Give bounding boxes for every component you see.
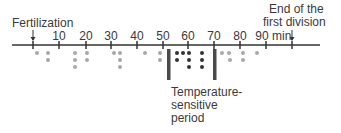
end-division-label-line2: first division bbox=[263, 16, 326, 29]
unit-label: min bbox=[272, 30, 291, 43]
tick-label-20: 20 bbox=[79, 30, 92, 43]
light-dots bbox=[35, 51, 259, 69]
tick-label-70: 70 bbox=[207, 30, 220, 43]
fertilization-arrow-icon bbox=[31, 30, 36, 41]
tick-label-80: 80 bbox=[233, 30, 246, 43]
tick-label-60: 60 bbox=[181, 30, 194, 43]
temp-sensitive-label-line3: period bbox=[171, 112, 204, 125]
tick-label-40: 40 bbox=[130, 30, 143, 43]
tick-label-30: 30 bbox=[104, 30, 117, 43]
tick-label-50: 50 bbox=[156, 30, 169, 43]
tick-label-90: 90 bbox=[255, 30, 268, 43]
temp-period-start-bar bbox=[167, 49, 171, 80]
temp-period-end-bar bbox=[213, 49, 217, 80]
tick-label-10: 10 bbox=[52, 30, 65, 43]
dark-dots bbox=[175, 51, 204, 69]
